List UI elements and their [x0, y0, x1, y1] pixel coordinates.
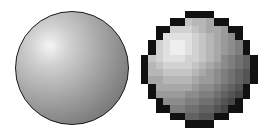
- sphere-pixel: [250, 76, 258, 84]
- sphere-pixel: [206, 120, 214, 128]
- sphere-pixel: [221, 113, 229, 121]
- sphere-pixel: [235, 105, 243, 113]
- pixel-sphere: [141, 11, 257, 127]
- sphere-pixel: [243, 91, 251, 99]
- smooth-sphere: [15, 11, 129, 125]
